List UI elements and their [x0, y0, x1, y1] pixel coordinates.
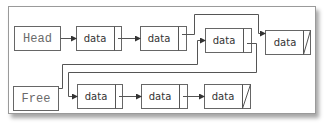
head-pointer: Head [15, 27, 61, 51]
node-data-label: data [213, 35, 236, 46]
linked-list-diagram: Head Free data data data data data [0, 0, 324, 124]
free-list-node: data [78, 85, 123, 109]
list-node: data [266, 31, 311, 55]
list-node: data [141, 27, 187, 51]
free-label: Free [22, 92, 51, 106]
node-data-label: data [274, 37, 297, 48]
head-label: Head [23, 32, 52, 46]
node-data-label: data [148, 33, 171, 44]
list-node: data [206, 29, 252, 53]
node-data-label: data [85, 91, 108, 102]
free-list-node: data [142, 85, 188, 109]
node-data-label: data [149, 91, 172, 102]
node-data-label: data [212, 91, 235, 102]
free-list-node: data [205, 85, 251, 109]
free-pointer: Free [14, 87, 59, 111]
list-node: data [77, 27, 122, 51]
node-data-label: data [84, 33, 107, 44]
